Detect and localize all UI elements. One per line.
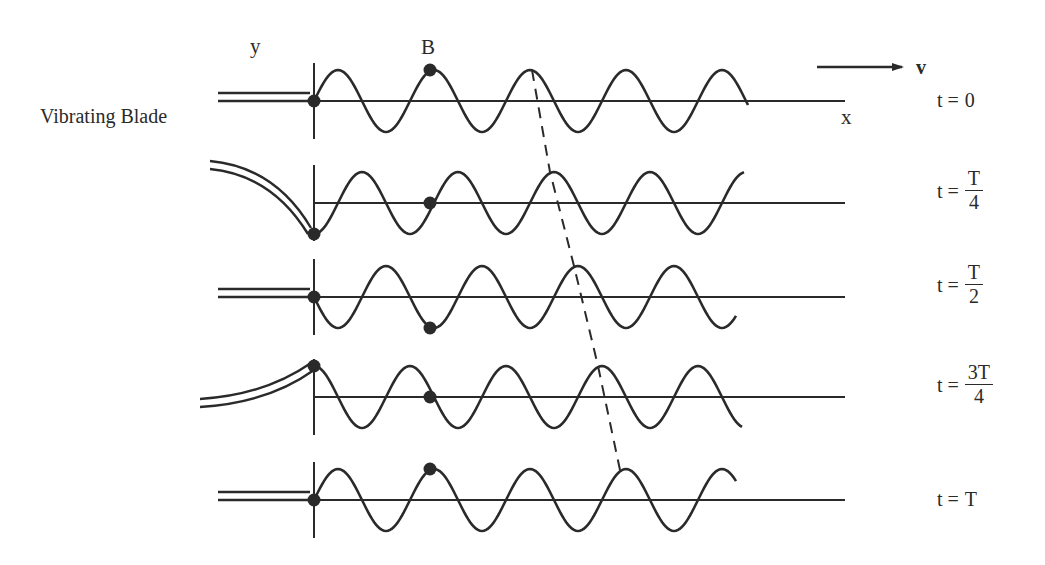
point-b-dot xyxy=(424,463,437,476)
time-fraction: T2 xyxy=(965,262,983,308)
vibrating-blade-label: Vibrating Blade xyxy=(40,106,167,126)
time-fraction: 3T4 xyxy=(965,362,993,408)
time-label: t =0 xyxy=(937,89,975,112)
fraction-numerator: T xyxy=(965,168,983,191)
source-point-dot xyxy=(308,228,321,241)
time-label-prefix: t = xyxy=(937,180,959,203)
y-axis-label: y xyxy=(250,36,261,57)
time-label-prefix: t = xyxy=(937,488,959,511)
time-label-prefix: t = xyxy=(937,374,959,397)
time-fraction: T4 xyxy=(965,168,983,214)
source-point-dot xyxy=(308,494,321,507)
crest-track-dashed-line xyxy=(532,70,620,470)
x-axis-label: x xyxy=(841,107,852,128)
source-point-dot xyxy=(308,95,321,108)
fraction-numerator: 3T xyxy=(965,362,993,385)
point-b-dot xyxy=(424,64,437,77)
point-b-label: B xyxy=(421,37,435,58)
fraction-denominator: 4 xyxy=(969,191,979,214)
source-point-dot xyxy=(308,360,321,373)
time-label: t =3T4 xyxy=(937,362,993,408)
point-b-dot xyxy=(424,322,437,335)
time-label-prefix: t = xyxy=(937,274,959,297)
time-label: t =T4 xyxy=(937,168,983,214)
velocity-label: v xyxy=(916,57,926,77)
fraction-denominator: 4 xyxy=(974,385,984,408)
fraction-denominator: 2 xyxy=(969,285,979,308)
time-value: T xyxy=(965,488,977,511)
time-label-prefix: t = xyxy=(937,89,959,112)
fraction-numerator: T xyxy=(965,262,983,285)
point-b-dot xyxy=(424,197,437,210)
time-value: 0 xyxy=(965,89,975,112)
traveling-wave-diagram xyxy=(0,0,1045,565)
time-label: t =T xyxy=(937,488,977,511)
source-point-dot xyxy=(308,291,321,304)
point-b-dot xyxy=(424,391,437,404)
time-label: t =T2 xyxy=(937,262,983,308)
